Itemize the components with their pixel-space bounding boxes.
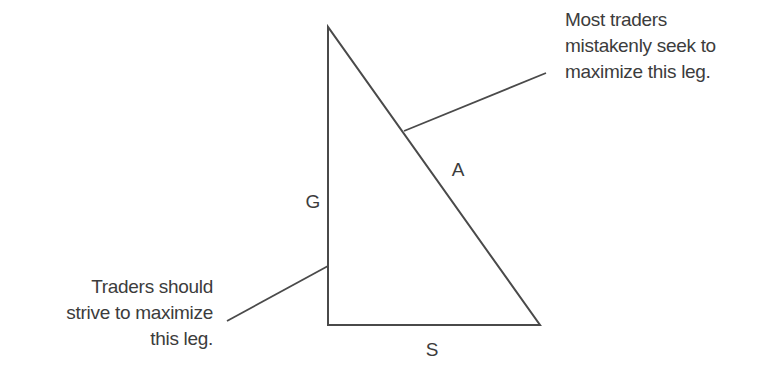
callout-line-to-hypotenuse [404, 73, 546, 131]
callout-line-text: this leg. [66, 326, 213, 352]
callout-vertical-leg-note: Traders should strive to maximize this l… [66, 274, 213, 352]
leg-label-g: G [306, 191, 321, 213]
callout-line-to-vertical-leg [227, 266, 328, 321]
leg-label-s: S [426, 339, 439, 361]
callout-line-text: Most traders [565, 7, 716, 33]
callout-hypotenuse-note: Most traders mistakenly seek to maximize… [565, 7, 716, 85]
right-triangle [328, 27, 540, 325]
callout-line-text: mistakenly seek to [565, 33, 716, 59]
callout-line-text: Traders should [66, 274, 213, 300]
diagram-canvas: G A S Most traders mistakenly seek to ma… [0, 0, 769, 378]
leg-label-a: A [452, 159, 465, 181]
callout-line-text: strive to maximize [66, 300, 213, 326]
callout-line-text: maximize this leg. [565, 59, 716, 85]
